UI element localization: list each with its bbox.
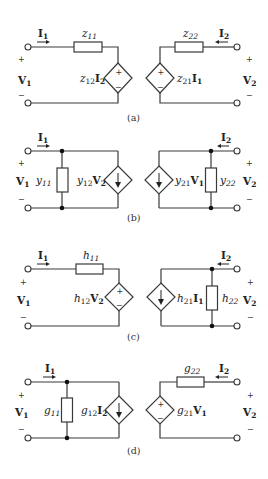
panel-b-y-parameters: I1 + V1 − y11 y12V2 I2 y21V1 y [15,131,256,223]
v2-plus: + [247,278,254,287]
terminal-2-top [234,266,240,272]
terminal-2-top [234,379,240,385]
resistor-y11 [57,168,68,192]
source-minus: − [157,414,164,423]
panel-b-port2: I2 y21V1 y22 + V2 − [145,131,256,211]
caption-d: (d) [127,445,141,456]
panel-c-port2: I2 h21I1 h22 + V2 − [147,249,256,329]
v2-plus: + [246,55,253,64]
terminal-2-bottom [234,100,240,106]
label-h11: h11 [83,249,99,263]
terminal-2-top [234,148,240,154]
node-dot [60,149,65,154]
label-g22: g22 [184,362,201,376]
panel-c-h-parameters: + − I1 h11 + V1 − h12V2 [16,249,256,342]
resistor-z11 [74,42,102,52]
source-plus: + [117,287,124,296]
two-port-models-figure: + − I1 z11 + V1 − z12I2 + − [0,0,268,479]
terminal-1-top [25,379,31,385]
source-plus: + [158,68,165,77]
label-v1: V1 [16,294,30,308]
wire [31,311,119,326]
wire [103,269,119,283]
caption-a: (a) [127,112,140,123]
v1-plus: + [18,159,25,168]
terminal-1-bottom [25,435,31,441]
caption-b: (b) [127,212,141,223]
v1-minus: − [18,195,25,204]
label-v2: V2 [242,74,256,88]
node-dot [209,206,214,211]
label-i1: I1 [45,362,55,376]
wire [102,47,118,63]
wire [31,93,118,103]
label-i2: I2 [221,249,231,263]
arrowhead-icon [215,40,219,44]
label-y22: y22 [219,174,236,188]
node-dot [209,149,214,154]
terminal-1-top [25,44,31,50]
label-i2: I2 [219,27,229,41]
terminal-1-bottom [25,205,31,211]
source-plus: + [158,400,165,409]
label-y21V1: y21V1 [174,174,204,188]
v1-minus: − [18,91,25,100]
node-dot [60,206,65,211]
v2-minus: − [247,313,254,322]
terminal-2-bottom [234,323,240,329]
v1-plus: + [18,55,25,64]
resistor-y22 [206,168,217,192]
panel-a-port1: + − I1 z11 + V1 − z12I2 [17,27,132,106]
panel-c-port1: + − I1 h11 + V1 − h12V2 [16,249,133,329]
v1-plus: + [18,391,25,400]
label-z11: z11 [81,27,97,41]
label-h12V2: h12V2 [74,292,104,306]
wire [160,424,234,438]
node-dot [210,267,215,272]
label-i1: I1 [38,249,48,263]
label-v2: V2 [242,175,256,189]
panel-a-port2: + − I2 z22 z21I1 + V2 − [146,27,256,106]
label-g21V1: g21V1 [177,404,207,418]
v1-minus: − [18,425,25,434]
node-dot [65,436,70,441]
panel-d-g-parameters: I1 + V1 − g11 g12I2 + − I2 g22 g21V1 + V… [14,362,256,456]
terminal-1-bottom [25,100,31,106]
v1-minus: − [20,313,27,322]
resistor-z22 [175,42,203,52]
resistor-g22 [177,377,204,387]
panel-d-port1: I1 + V1 − g11 g12I2 [14,362,133,441]
v2-plus: + [247,391,254,400]
v1-plus: + [20,278,27,287]
terminal-2-top [234,44,240,50]
wire [160,93,234,103]
source-minus: − [116,301,123,310]
label-i2: I2 [219,362,229,376]
label-h21I1: h21I1 [177,292,203,306]
label-z21I1: z21I1 [176,72,202,86]
terminal-2-bottom [234,435,240,441]
resistor-g11 [62,398,73,422]
v2-minus: − [247,425,254,434]
label-v1: V1 [17,74,31,88]
panel-a-z-parameters: + − I1 z11 + V1 − z12I2 + − [17,27,256,123]
label-i2: I2 [221,131,231,145]
terminal-1-bottom [25,323,31,329]
arrowhead-icon [215,375,219,379]
label-v2: V2 [242,294,256,308]
v2-plus: + [246,159,253,168]
resistor-h11 [76,264,103,274]
terminal-1-top [25,266,31,272]
label-g12I2: g12I2 [81,404,107,418]
v2-minus: − [246,195,253,204]
wire [160,382,177,396]
caption-c: (c) [127,331,140,342]
source-minus: − [157,83,164,92]
terminal-1-top [25,148,31,154]
label-z12I2: z12I2 [79,72,105,86]
arrowhead-icon [217,144,221,148]
terminal-2-bottom [234,205,240,211]
label-y12V2: y12V2 [76,174,106,188]
label-g11: g11 [44,404,60,418]
label-z22: z22 [182,27,198,41]
